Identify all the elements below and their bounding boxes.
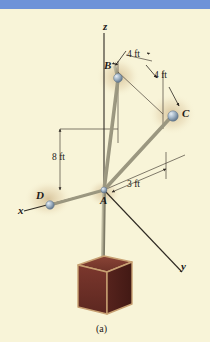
figure-canvas: z x y B C A D 4 ft 4 ft 8 ft 3 ft (a)	[0, 9, 210, 342]
dim-8ft-label: 8 ft	[52, 153, 65, 163]
page-top-accent-bar	[0, 0, 210, 9]
suspended-block	[78, 256, 132, 314]
x-axis-label: x	[18, 205, 24, 216]
point-a-label: A	[100, 195, 107, 206]
figure-page: z x y B C A D 4 ft 4 ft 8 ft 3 ft (a)	[0, 0, 210, 342]
z-axis-label: z	[103, 21, 107, 32]
dim-4ft-diagonal-label: 4 ft	[154, 71, 167, 81]
point-b-label: B	[104, 60, 111, 71]
node-c-sphere	[168, 111, 178, 121]
node-d-sphere	[46, 201, 54, 209]
point-c-label: C	[182, 108, 189, 119]
dim-3ft-label: 3 ft	[127, 180, 140, 190]
node-b-sphere	[114, 74, 123, 83]
dim-4ft-top-label: 4 ft	[127, 50, 140, 60]
block-front-face	[78, 265, 107, 314]
figure-caption: (a)	[96, 324, 107, 334]
node-a-sphere	[101, 187, 107, 193]
block-side-face	[107, 262, 132, 314]
point-d-label: D	[36, 190, 44, 201]
y-axis-label: y	[181, 261, 186, 272]
